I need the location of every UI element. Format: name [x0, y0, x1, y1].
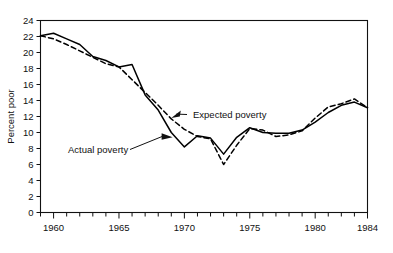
- expected-arrowhead: [171, 111, 181, 119]
- annotation-actual-poverty: Actual poverty: [68, 144, 128, 155]
- chart-canvas: 0246810121416182022241960196519701975198…: [0, 0, 393, 253]
- x-tick-label: 1970: [174, 222, 195, 233]
- y-axis-title: Percent poor: [5, 89, 16, 143]
- y-tick-label: 22: [23, 31, 34, 42]
- y-tick-label: 2: [28, 191, 33, 202]
- y-tick-label: 4: [28, 175, 33, 186]
- annotation-expected-poverty: Expected poverty: [193, 109, 267, 120]
- y-tick-label: 10: [23, 127, 34, 138]
- x-tick-label: 1980: [305, 222, 326, 233]
- y-tick-label: 20: [23, 47, 34, 58]
- y-tick-label: 6: [28, 159, 33, 170]
- y-tick-label: 18: [23, 63, 34, 74]
- y-tick-label: 12: [23, 111, 34, 122]
- y-tick-label: 16: [23, 79, 34, 90]
- series-line-actual: [41, 33, 368, 154]
- y-tick-label: 8: [28, 143, 33, 154]
- y-tick-label: 14: [23, 95, 34, 106]
- actual-arrowhead: [162, 133, 173, 140]
- x-tick-label: 1984: [357, 222, 378, 233]
- y-tick-label: 0: [28, 207, 33, 218]
- x-tick-label: 1975: [239, 222, 260, 233]
- poverty-line-chart: 0246810121416182022241960196519701975198…: [0, 0, 393, 253]
- actual-leader-line: [130, 136, 163, 149]
- x-tick-label: 1960: [43, 222, 64, 233]
- x-tick-label: 1965: [108, 222, 129, 233]
- y-tick-label: 24: [23, 15, 34, 26]
